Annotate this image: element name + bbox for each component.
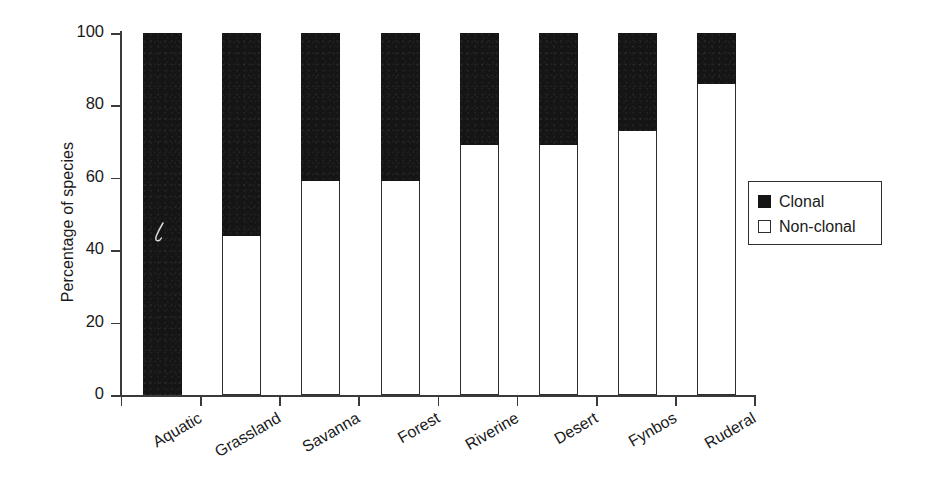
x-tick-label-text: Forest	[394, 409, 442, 447]
x-tick-label-text: Fynbos	[626, 409, 680, 451]
x-tick-0	[121, 396, 123, 406]
legend-label-clonal: Clonal	[779, 194, 824, 210]
y-tick-label-100: 100	[76, 22, 104, 41]
x-tick-label-text: Desert	[551, 409, 601, 448]
bar-group[interactable]	[301, 33, 340, 395]
chart-figure: Percentage of species 020406080100 Aquat…	[0, 0, 926, 500]
bar-segment-non-clonal[interactable]	[301, 181, 340, 395]
y-tick-20: 20	[111, 323, 120, 325]
x-tick-1	[200, 396, 202, 406]
x-tick-label-text: Savanna	[300, 409, 364, 456]
bar-segment-clonal[interactable]	[381, 33, 420, 181]
y-tick-label-80: 80	[86, 94, 104, 113]
bar-group[interactable]	[143, 33, 182, 395]
x-tick-2	[279, 396, 281, 406]
y-tick-60: 60	[111, 178, 120, 180]
y-tick-40: 40	[111, 250, 120, 252]
bar-group[interactable]	[539, 33, 578, 395]
bar-segment-clonal[interactable]	[460, 33, 499, 145]
y-tick-label-20: 20	[86, 312, 104, 331]
legend-item-clonal[interactable]: Clonal	[758, 189, 881, 214]
legend-label-non-clonal: Non-clonal	[779, 219, 855, 235]
bar-segment-clonal[interactable]	[143, 33, 182, 395]
x-tick-3	[358, 396, 360, 406]
x-tick-7	[675, 396, 677, 406]
x-tick-label-text: Aquatic	[150, 409, 205, 451]
x-tick-label-text: Riverine	[462, 409, 522, 454]
bar-segment-clonal[interactable]	[301, 33, 340, 181]
bar-group[interactable]	[460, 33, 499, 395]
x-tick-6	[596, 396, 598, 406]
bar-group[interactable]	[618, 33, 657, 395]
bar-group[interactable]	[222, 33, 261, 395]
x-tick-label-text: Grassland	[212, 409, 284, 461]
bar-segment-non-clonal[interactable]	[381, 181, 420, 395]
filled-square-icon	[758, 195, 771, 208]
y-tick-80: 80	[111, 105, 120, 107]
x-tick-8	[754, 396, 756, 406]
hollow-square-icon	[758, 220, 771, 233]
x-tick-5	[517, 396, 519, 406]
x-tick-4	[438, 396, 440, 406]
bar-segment-non-clonal[interactable]	[618, 131, 657, 395]
chart-legend: Clonal Non-clonal	[748, 181, 882, 245]
bar-segment-clonal[interactable]	[539, 33, 578, 145]
x-tick-label-text: Ruderal	[702, 409, 760, 453]
legend-item-non-clonal[interactable]: Non-clonal	[758, 214, 881, 239]
bar-segment-non-clonal[interactable]	[222, 236, 261, 395]
bar-segment-clonal[interactable]	[222, 33, 261, 236]
bar-segment-clonal[interactable]	[697, 33, 736, 84]
bar-segment-non-clonal[interactable]	[460, 145, 499, 395]
y-tick-label-0: 0	[95, 384, 104, 403]
bar-group[interactable]	[697, 33, 736, 395]
y-tick-0: 0	[111, 395, 120, 397]
y-axis-title: Percentage of species	[59, 92, 77, 352]
bar-group[interactable]	[381, 33, 420, 395]
bar-segment-non-clonal[interactable]	[697, 84, 736, 395]
plot-area: 020406080100	[120, 33, 755, 395]
y-tick-label-40: 40	[86, 239, 104, 258]
bar-segment-clonal[interactable]	[618, 33, 657, 131]
bar-segment-non-clonal[interactable]	[539, 145, 578, 395]
y-tick-label-60: 60	[86, 167, 104, 186]
y-tick-100: 100	[111, 33, 120, 35]
